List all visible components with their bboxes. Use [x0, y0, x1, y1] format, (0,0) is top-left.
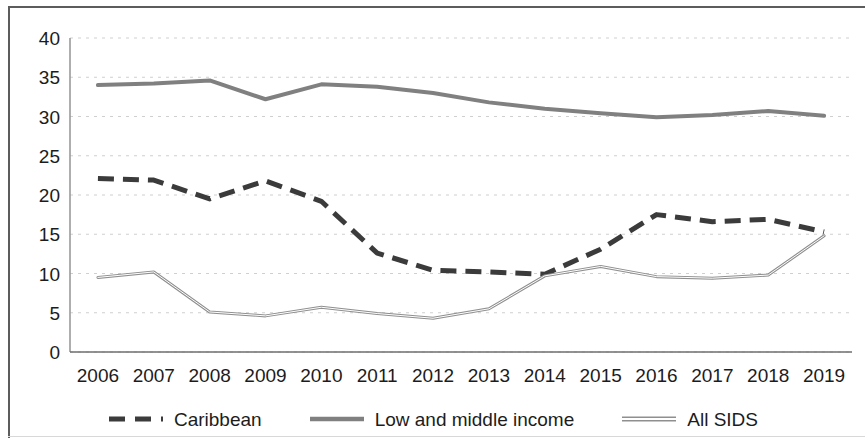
y-tick-label-40: 40 [20, 29, 60, 48]
legend-label-all-sids: All SIDS [687, 410, 758, 429]
y-tick-label-20: 20 [20, 186, 60, 205]
legend-label-caribbean: Caribbean [174, 410, 262, 429]
legend-label-low-and-middle-income: Low and middle income [375, 410, 575, 429]
y-tick-label-15: 15 [20, 225, 60, 244]
y-tick-label-5: 5 [20, 304, 60, 323]
x-tick-label-2006: 2006 [77, 366, 119, 385]
x-tick-label-2012: 2012 [412, 366, 454, 385]
x-tick-label-2009: 2009 [244, 366, 286, 385]
series-line-caribbean [98, 179, 824, 275]
gridlines [70, 38, 852, 352]
solid-line-swatch [308, 412, 366, 426]
x-tick-label-2008: 2008 [189, 366, 231, 385]
thin-line-swatch [620, 412, 678, 426]
x-tick-label-2017: 2017 [691, 366, 733, 385]
x-tick-label-2011: 2011 [357, 366, 398, 385]
x-tick-label-2010: 2010 [300, 366, 342, 385]
x-tick-label-2013: 2013 [468, 366, 510, 385]
chart-figure: 0510152025303540 20062007200820092010201… [0, 0, 865, 445]
legend-item-caribbean[interactable]: Caribbean [107, 410, 262, 429]
legend-item-low-and-middle-income[interactable]: Low and middle income [308, 410, 575, 429]
dashed-line-swatch [107, 412, 165, 426]
series-line-low-and-middle-income [98, 80, 824, 117]
x-tick-label-2007: 2007 [133, 366, 175, 385]
x-tick-label-2016: 2016 [635, 366, 677, 385]
x-tick-label-2018: 2018 [747, 366, 789, 385]
x-tick-label-2015: 2015 [580, 366, 622, 385]
y-tick-label-25: 25 [20, 147, 60, 166]
legend-item-all-sids[interactable]: All SIDS [620, 410, 758, 429]
y-tick-label-35: 35 [20, 68, 60, 87]
chart-legend: CaribbeanLow and middle incomeAll SIDS [0, 404, 865, 434]
y-tick-label-30: 30 [20, 108, 60, 127]
x-axis-tick-labels: 2006200720082009201020112012201320142015… [0, 360, 865, 390]
y-tick-label-10: 10 [20, 265, 60, 284]
series-line-all-sids-outer [98, 236, 824, 318]
x-tick-label-2019: 2019 [803, 366, 845, 385]
x-tick-label-2014: 2014 [524, 366, 566, 385]
